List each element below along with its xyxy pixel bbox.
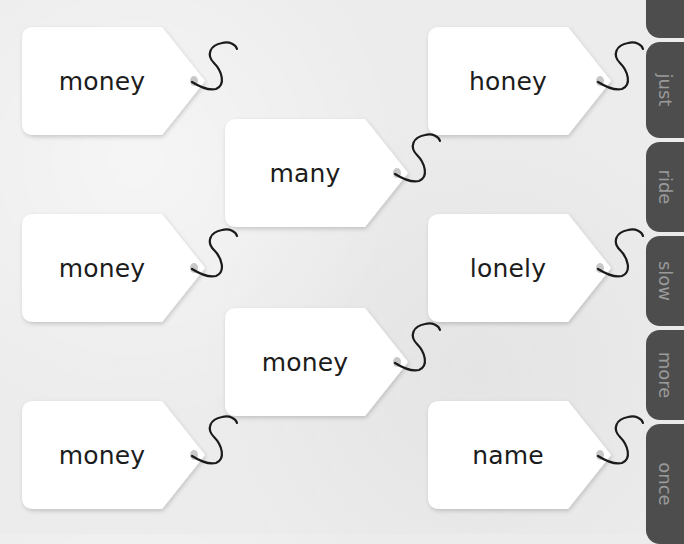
side-tab-label: just [655, 74, 676, 107]
side-tab-more[interactable]: more [646, 330, 684, 420]
word-tag-7[interactable]: money [22, 401, 252, 509]
side-tab-label: more [655, 352, 676, 399]
tag-word: lonely [428, 214, 588, 322]
tag-word: many [225, 119, 385, 227]
word-tag-6[interactable]: money [225, 308, 455, 416]
side-tab-label: once [655, 462, 676, 505]
tag-word: name [428, 401, 588, 509]
tag-word: money [22, 401, 182, 509]
side-tab-once[interactable]: once [646, 424, 684, 544]
side-tab-just[interactable]: just [646, 42, 684, 138]
side-tab-label: slow [655, 261, 676, 301]
side-tab-slow[interactable]: slow [646, 236, 684, 326]
word-tag-1[interactable]: money [22, 27, 252, 135]
side-tab-ride[interactable]: ride [646, 142, 684, 232]
word-tag-3[interactable]: many [225, 119, 455, 227]
side-tabs: o just ride slow more once [646, 0, 684, 534]
word-tag-5[interactable]: lonely [428, 214, 658, 322]
tag-word: money [225, 308, 385, 416]
tag-word: money [22, 214, 182, 322]
tag-word: money [22, 27, 182, 135]
side-tab-o[interactable]: o [646, 0, 684, 38]
word-tag-8[interactable]: name [428, 401, 658, 509]
side-tab-label: ride [655, 170, 676, 205]
word-tag-4[interactable]: money [22, 214, 252, 322]
